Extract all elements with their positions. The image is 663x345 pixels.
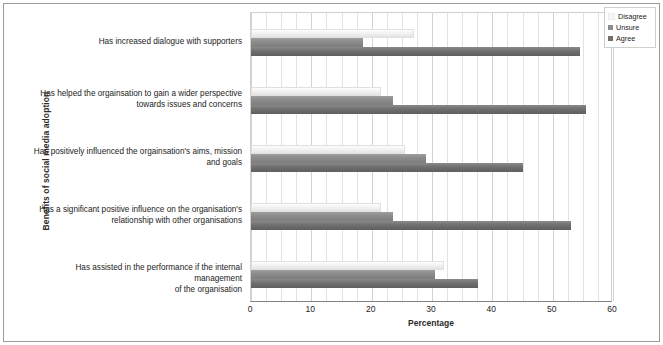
bar-disagree	[251, 29, 414, 38]
legend-label: Disagree	[618, 12, 647, 21]
category-axis-labels: Has increased dialogue with supportersHa…	[28, 12, 246, 302]
chart-screenshot: Benefits of social media adoption Has in…	[0, 0, 663, 345]
plot-area	[250, 12, 612, 302]
bar-agree	[251, 105, 586, 114]
bar-disagree	[251, 203, 381, 212]
bar-unsure	[251, 270, 435, 279]
bar-group	[251, 87, 611, 114]
category-label-line: and goals	[28, 157, 242, 168]
bar-disagree	[251, 261, 444, 270]
category-label-line: Has a significant positive influence on …	[28, 204, 242, 215]
bar-agree	[251, 221, 571, 230]
x-tick-label: 30	[426, 304, 435, 314]
x-axis-tick-labels: 0102030405060	[250, 302, 612, 316]
bar-agree	[251, 163, 523, 172]
x-tick-label: 40	[487, 304, 496, 314]
category-label-line: relationship with other organisations	[28, 215, 242, 226]
x-tick-label: 10	[306, 304, 315, 314]
legend-item-agree[interactable]: Agree	[608, 33, 652, 43]
legend-swatch-icon	[608, 13, 615, 20]
x-tick-label: 60	[607, 304, 616, 314]
category-label-line: Has helped the orgainsation to gain a wi…	[28, 88, 242, 99]
bar-unsure	[251, 212, 393, 221]
legend-item-unsure[interactable]: Unsure	[608, 22, 652, 32]
gridline-major	[613, 13, 614, 301]
legend-swatch-icon	[608, 25, 613, 30]
category-label-line: towards issues and concerns	[28, 99, 242, 110]
bar-unsure	[251, 96, 393, 105]
bar-group	[251, 145, 611, 172]
category-label: Has a significant positive influence on …	[28, 204, 246, 226]
x-axis-title: Percentage	[250, 318, 612, 328]
legend-item-disagree[interactable]: Disagree	[608, 11, 652, 21]
x-tick-label: 0	[248, 304, 253, 314]
x-tick-label: 20	[366, 304, 375, 314]
category-label: Has helped the orgainsation to gain a wi…	[28, 88, 246, 110]
category-label-line: Has positively influenced the orgainsati…	[28, 146, 242, 157]
category-label: Has increased dialogue with supporters	[28, 36, 246, 47]
category-label-line: Has assisted in the performance if the i…	[28, 262, 242, 284]
bar-group	[251, 29, 611, 56]
legend-label: Agree	[616, 34, 635, 43]
bar-disagree	[251, 87, 381, 96]
category-label-line: of the organisation	[28, 284, 242, 295]
bar-unsure	[251, 154, 426, 163]
x-tick-label: 50	[547, 304, 556, 314]
bar-agree	[251, 47, 580, 56]
bar-unsure	[251, 38, 363, 47]
bar-group	[251, 261, 611, 288]
category-label: Has positively influenced the orgainsati…	[28, 146, 246, 168]
category-label: Has assisted in the performance if the i…	[28, 262, 246, 295]
legend-swatch-icon	[608, 36, 613, 41]
chart-legend: DisagreeUnsureAgree	[604, 7, 656, 48]
legend-label: Unsure	[616, 23, 639, 32]
bar-agree	[251, 279, 478, 288]
bar-group	[251, 203, 611, 230]
category-label-line: Has increased dialogue with supporters	[28, 36, 242, 47]
bar-disagree	[251, 145, 405, 154]
